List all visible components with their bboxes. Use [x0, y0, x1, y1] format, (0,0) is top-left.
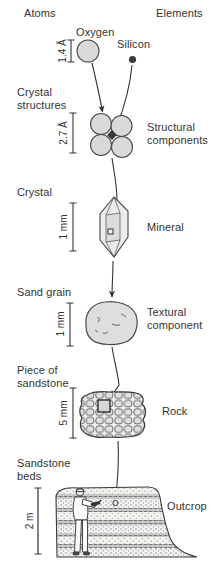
oxygen-atom-icon: [77, 40, 99, 62]
diagram-canvas: Atoms Elements Oxygen Silicon Crystal st…: [0, 0, 223, 569]
scale-text-atom: 1.4 Å: [57, 39, 68, 62]
silicon-atom-icon: [129, 56, 136, 63]
column-header-atoms: Atoms: [24, 7, 56, 20]
connector-grain-to-rock: [111, 347, 119, 397]
connector-oxygen-to-structure: [92, 63, 103, 112]
sand-grain-label: Sand grain: [17, 286, 71, 299]
piece-of-sandstone-label: Piece of sandstone: [17, 364, 73, 390]
scale-bar-atom: [68, 40, 75, 62]
scale-bar-rock: [70, 388, 77, 438]
sand-grain-icon: [86, 302, 137, 345]
crystal-mineral-icon: [100, 197, 128, 257]
scale-bar-outcrop: [35, 488, 42, 554]
mineral-label: Mineral: [147, 221, 184, 234]
column-header-elements: Elements: [156, 7, 203, 20]
rock-label: Rock: [162, 405, 187, 418]
unit-cell-marker: [108, 229, 113, 234]
crystal-structures-label: Crystal structures: [17, 86, 79, 112]
scale-bar-structure: [70, 113, 77, 153]
oxygen-label: Oxygen: [76, 26, 115, 39]
outcrop-label: Outcrop: [167, 500, 207, 513]
connector-crystal-to-grain: [112, 261, 113, 297]
silicon-label: Silicon: [117, 38, 150, 51]
sandstone-beds-label: Sandstone beds: [17, 457, 77, 483]
structural-components-label: Structural components: [147, 121, 215, 147]
rock-icon: [80, 392, 146, 438]
scale-text-rock: 5 mm: [58, 401, 69, 426]
textural-component-label: Textural component: [147, 306, 215, 332]
scale-text-structure: 2.7 Å: [58, 121, 69, 144]
structural-components-icon: [91, 114, 133, 158]
scale-text-grain: 1 mm: [55, 312, 66, 337]
scale-text-outcrop: 2 m: [24, 513, 35, 530]
crystal-label: Crystal: [17, 186, 52, 199]
sample-location-marker: [113, 500, 118, 505]
scale-text-crystal: 1 mm: [58, 215, 69, 240]
scale-bar-grain: [67, 303, 74, 346]
outcrop-icon: [50, 485, 205, 560]
highlighted-grain-marker: [98, 400, 110, 412]
scale-bar-crystal: [70, 203, 77, 251]
